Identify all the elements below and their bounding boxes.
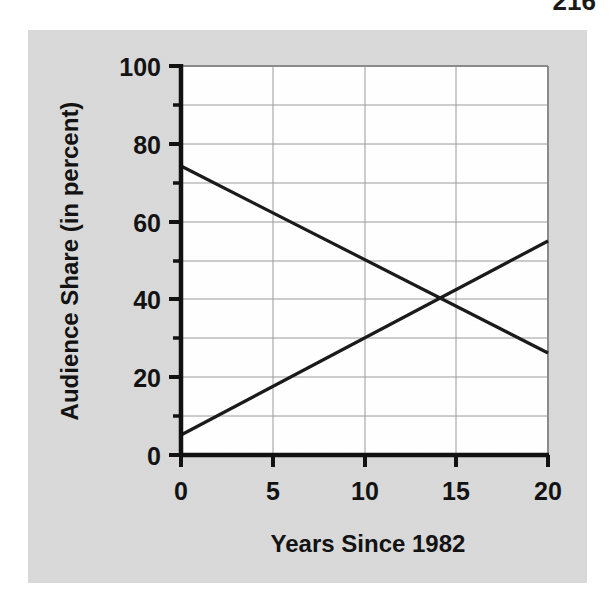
y-axis-title: Audience Share (in percent) — [56, 102, 83, 421]
y-tick-label: 40 — [133, 286, 161, 314]
x-tick-label: 10 — [351, 477, 379, 505]
x-tick-label: 20 — [534, 477, 562, 505]
x-axis-tick-labels: 0 5 10 15 20 — [174, 477, 562, 505]
y-tick-label: 80 — [133, 131, 161, 159]
y-tick-label: 100 — [119, 53, 161, 81]
audience-share-line-chart: 100 80 60 40 20 0 0 5 10 15 20 Years Sin… — [28, 30, 587, 583]
y-tick-label: 60 — [133, 209, 161, 237]
y-tick-label: 0 — [147, 442, 161, 470]
x-tick-label: 5 — [266, 477, 280, 505]
y-tick-label: 20 — [133, 364, 161, 392]
x-tick-label: 0 — [174, 477, 188, 505]
page-number: 216 — [553, 0, 596, 17]
x-axis-title: Years Since 1982 — [271, 530, 466, 557]
x-tick-label: 15 — [442, 477, 470, 505]
figure-panel: 100 80 60 40 20 0 0 5 10 15 20 Years Sin… — [28, 30, 587, 583]
y-axis-tick-labels: 100 80 60 40 20 0 — [119, 53, 161, 470]
